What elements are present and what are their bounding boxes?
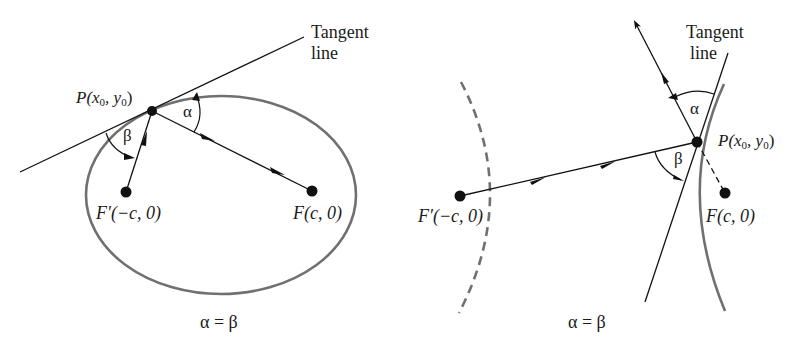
hyperbola-right-branch	[700, 84, 725, 311]
hyperbola-panel	[455, 24, 731, 313]
point-p-right	[692, 137, 703, 148]
alpha-label: α	[183, 103, 192, 120]
focus-left	[121, 187, 132, 198]
equation-right: α = β	[568, 313, 606, 331]
point-p-right-prefix: P(x	[718, 131, 742, 150]
beta-arc-arrow	[124, 153, 135, 160]
reflected-ray	[152, 111, 312, 191]
reflected-arrowhead-2	[270, 167, 285, 175]
tangent-label-right-line1: Tangent	[686, 23, 744, 41]
point-p-label-mid: , y	[105, 88, 121, 107]
tangent-line-right	[645, 53, 728, 302]
focus-right-label: F(c, 0)	[293, 204, 342, 222]
beta-arc-arrow-right	[673, 175, 684, 181]
incident-ray-right	[460, 142, 697, 196]
point-p-label-prefix: P(x	[76, 88, 100, 107]
equation-left: α = β	[200, 313, 238, 331]
focus-left-right	[455, 191, 466, 202]
focus-right-right	[720, 188, 731, 199]
point-p-label: P(x0, y0)	[76, 89, 132, 108]
point-p-right-suffix: )	[769, 131, 775, 150]
alpha-label-right: α	[690, 100, 699, 117]
beta-label-right: β	[674, 150, 683, 167]
reflected-arrowhead-mid	[661, 72, 669, 84]
point-p	[147, 106, 157, 116]
beta-label: β	[123, 127, 132, 144]
reflected-arrowhead-1	[200, 133, 215, 141]
focus-left-label-right: F′(−c, 0)	[418, 207, 483, 225]
alpha-arc-arrow-right	[668, 93, 678, 100]
tangent-label-line1: Tangent	[311, 23, 369, 41]
alpha-arc-right	[675, 91, 714, 97]
ellipse-panel	[20, 37, 356, 294]
point-p-right-mid: , y	[747, 131, 763, 150]
point-p-label-suffix: )	[127, 88, 133, 107]
point-p-label-right: P(x0, y0)	[718, 132, 774, 151]
focus-right	[307, 186, 318, 197]
tangent-label-right-line2: line	[690, 44, 717, 62]
focus-right-label-right: F(c, 0)	[706, 207, 755, 225]
tangent-line	[20, 37, 304, 172]
tangent-label-line2: line	[311, 44, 338, 62]
incident-arrowhead	[141, 131, 147, 146]
diagram-canvas	[0, 0, 800, 352]
focus-left-label: F′(−c, 0)	[96, 204, 161, 222]
